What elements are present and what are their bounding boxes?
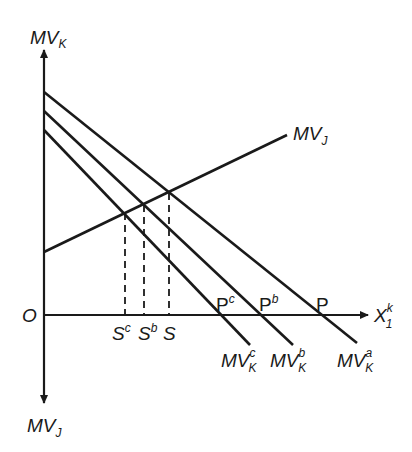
mvj-line-label: MVJ [293,123,329,148]
mvk-a-line-label: MVaK [337,346,374,375]
y-axis-up-label: MVK [30,27,68,51]
point-pc-label: Pc [216,292,235,315]
mvk-b-line [44,111,293,345]
point-sb-label: Sb [138,321,158,344]
mvj-line [44,135,287,252]
y-axis-down-label: MVJ [27,415,63,440]
marginal-value-diagram: MVK MVJ Xk1 O MVJ Pc Pb P Sc Sb S MVcK M… [0,0,412,452]
x-axis-label: Xk1 [373,301,394,331]
point-pb-label: Pb [259,292,279,315]
mvk-b-line-label: MVbK [270,346,307,375]
point-sc-label: Sc [112,321,131,344]
diagram-canvas: MVK MVJ Xk1 O MVJ Pc Pb P Sc Sb S MVcK M… [0,0,412,452]
point-p-label: P [316,294,329,315]
mvk-c-line-label: MVcK [221,346,258,375]
point-s-label: S [163,323,176,344]
origin-label: O [22,305,37,326]
